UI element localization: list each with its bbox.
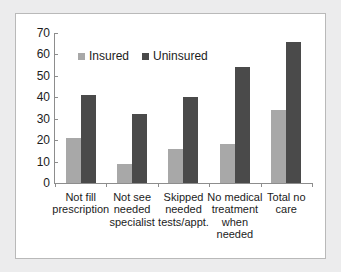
y-axis-tick-label: 10	[22, 156, 50, 168]
bar-insured	[168, 149, 183, 183]
bar-group	[55, 33, 106, 183]
x-axis-category-labels: Not fillprescriptionNot seeneededspecial…	[55, 191, 312, 253]
y-axis-tick-label: 40	[22, 91, 50, 103]
x-axis-tick	[106, 183, 107, 187]
y-axis-tick-label: 0	[22, 177, 50, 189]
bar-insured	[66, 138, 81, 183]
x-axis-line	[54, 183, 312, 184]
x-axis-tick	[261, 183, 262, 187]
x-axis-tick	[312, 183, 313, 187]
x-axis-tick	[209, 183, 210, 187]
y-axis-tick-label: 60	[22, 48, 50, 60]
bar-group	[158, 33, 209, 183]
chart-plot-wrapper: 010203040506070 Insured Uninsured Not fi…	[16, 14, 325, 258]
bar-insured	[220, 144, 235, 183]
bar-group	[261, 33, 312, 183]
x-axis-tick	[158, 183, 159, 187]
page-background: 010203040506070 Insured Uninsured Not fi…	[0, 0, 341, 272]
x-axis-tick	[55, 183, 56, 187]
x-axis-category-label: Total nocare	[255, 191, 318, 216]
y-axis-tick-label: 50	[22, 70, 50, 82]
y-axis-tick-label: 20	[22, 134, 50, 146]
bar-uninsured	[235, 67, 250, 183]
bar-uninsured	[132, 114, 147, 183]
bar-uninsured	[286, 42, 301, 183]
y-axis-tick-label: 30	[22, 113, 50, 125]
bar-plot-area	[55, 33, 312, 183]
bar-insured	[271, 110, 286, 183]
bar-group	[106, 33, 157, 183]
bar-group	[209, 33, 260, 183]
bar-uninsured	[183, 97, 198, 183]
chart-figure-frame: 010203040506070 Insured Uninsured Not fi…	[15, 13, 326, 259]
bar-insured	[117, 164, 132, 183]
bar-uninsured	[81, 95, 96, 183]
y-axis-tick-label: 70	[22, 27, 50, 39]
